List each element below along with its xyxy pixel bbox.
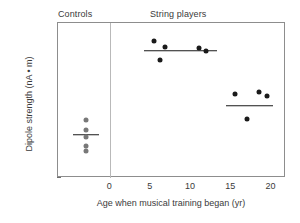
x-tick-label: 5 (135, 181, 165, 191)
y-axis-label: Dipole strength (nA • m) (24, 24, 34, 184)
x-tick-label: 20 (255, 181, 285, 191)
scatter-chart-figure: Controls String players Dipole strength … (0, 0, 300, 223)
data-point (196, 46, 201, 51)
x-axis-label: Age when musical training began (yr) (57, 198, 285, 208)
x-tick-label: 15 (215, 181, 245, 191)
x-tick-label: 10 (175, 181, 205, 191)
data-point (84, 134, 89, 139)
group-divider-line (110, 23, 111, 178)
data-point (84, 118, 89, 123)
data-point (256, 90, 261, 95)
data-point (163, 45, 168, 50)
data-point (204, 48, 209, 53)
data-point (158, 58, 163, 63)
mean-line (226, 105, 274, 107)
group-header-controls: Controls (58, 9, 92, 19)
data-point (264, 93, 269, 98)
group-header-string-players: String players (150, 9, 206, 19)
x-tick-label: 0 (94, 181, 124, 191)
data-point (84, 149, 89, 154)
data-point (233, 91, 238, 96)
plot-area (57, 22, 285, 177)
data-point (151, 39, 156, 44)
y-tick-mark (57, 177, 61, 178)
data-point (84, 127, 89, 132)
data-point (244, 116, 249, 121)
